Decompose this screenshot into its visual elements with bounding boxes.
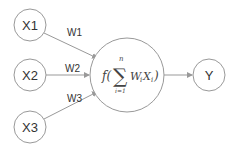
node-label: X2 — [22, 68, 38, 83]
weight-label-w2: W2 — [65, 63, 80, 74]
node-label: X3 — [22, 120, 38, 135]
perceptron-diagram: X1 X2 X3 W1 W2 W3 f( ∑ n i=1 W i X i ) Y — [0, 0, 242, 153]
input-node-x3: X3 — [14, 111, 46, 143]
close-paren: ) — [153, 69, 159, 83]
lower-limit: i=1 — [115, 87, 126, 94]
upper-limit: n — [119, 55, 124, 63]
weight-label-w1: W1 — [67, 27, 82, 38]
output-node-y: Y — [193, 59, 225, 91]
activation-func: f( — [101, 69, 111, 83]
term-sub: i — [140, 76, 142, 84]
input-node-x1: X1 — [14, 9, 46, 41]
input-node-x2: X2 — [14, 59, 46, 91]
sum-symbol: ∑ — [113, 64, 128, 88]
term2-sub: i — [151, 76, 153, 84]
node-label: Y — [205, 68, 214, 83]
neuron-node: f( ∑ n i=1 W i X i ) — [90, 38, 164, 112]
weight-label-w3: W3 — [67, 93, 82, 104]
node-label: X1 — [22, 18, 38, 33]
